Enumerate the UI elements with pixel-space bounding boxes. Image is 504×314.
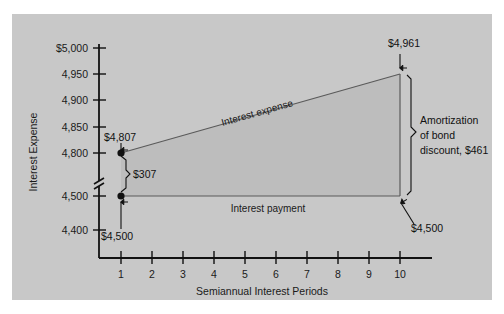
chart-figure: $5,000 4,950 4,900 4,850 4,800 4,500 4,4…	[0, 0, 504, 314]
chart-canvas: $5,000 4,950 4,900 4,850 4,800 4,500 4,4…	[0, 0, 504, 314]
x-tick-label-1: 2	[149, 268, 155, 280]
x-tick-label-2: 3	[180, 268, 186, 280]
y-tick-label-5: 4,500	[62, 190, 88, 202]
y-tick-label-3: 4,850	[62, 121, 88, 133]
annotation-end-expense-label: $4,961	[388, 37, 420, 49]
series-label-interest-payment: Interest payment	[231, 203, 306, 214]
annotation-amortization-line2: of bond	[420, 129, 455, 141]
x-tick-label-7: 8	[335, 268, 341, 280]
annotation-first-period-difference-label: $307	[133, 168, 157, 180]
y-tick-label-1: 4,950	[62, 68, 88, 80]
annotation-start-payment-label: $4,500	[101, 230, 133, 242]
area-between-lines	[121, 74, 400, 196]
x-tick-label-3: 4	[211, 268, 217, 280]
annotation-start-expense-label: $4,807	[104, 131, 136, 143]
data-point-expense-period1	[117, 149, 124, 156]
x-tick-label-4: 5	[242, 268, 248, 280]
data-point-payment-period1	[117, 192, 124, 199]
x-tick-label-8: 9	[366, 268, 372, 280]
x-tick-label-5: 6	[273, 268, 279, 280]
y-tick-label-2: 4,900	[62, 94, 88, 106]
x-axis-title: Semiannual Interest Periods	[196, 285, 328, 297]
annotation-end-payment-arrow	[401, 203, 414, 224]
y-tick-label-0: $5,000	[56, 42, 88, 54]
annotation-end-payment-label: $4,500	[411, 222, 443, 234]
x-tick-label-9: 10	[394, 268, 406, 280]
annotation-amortization-line1: Amortization	[420, 114, 479, 126]
x-axis	[99, 251, 432, 264]
x-tick-label-0: 1	[118, 268, 124, 280]
x-tick-label-6: 7	[304, 268, 310, 280]
y-tick-label-6: 4,400	[62, 224, 88, 236]
brace-amortization	[407, 75, 416, 195]
annotation-amortization-line3: discount, $461	[420, 144, 488, 156]
y-tick-label-4: 4,800	[62, 147, 88, 159]
y-axis-title: Interest Expense	[27, 112, 39, 191]
y-axis	[93, 44, 106, 258]
